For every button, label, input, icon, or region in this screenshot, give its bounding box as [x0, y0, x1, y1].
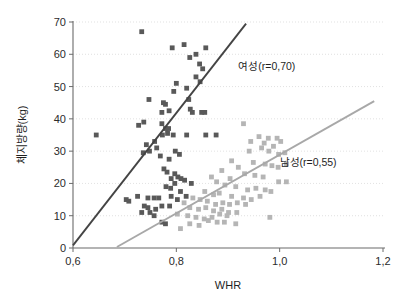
x-tick-label-0.6: 0,6 [65, 255, 80, 267]
data-point [222, 220, 227, 225]
data-point [159, 110, 164, 115]
data-point [203, 205, 208, 210]
data-point [185, 213, 190, 218]
x-tick-label-0.8: 0,8 [169, 255, 184, 267]
data-point [139, 210, 144, 215]
data-point [227, 202, 232, 207]
data-point [187, 221, 192, 226]
data-point [254, 186, 259, 191]
data-point [146, 205, 151, 210]
data-point [126, 199, 131, 204]
y-tick-labels-group: 010203040506070 [54, 16, 66, 254]
data-point [276, 179, 281, 184]
data-point [243, 202, 248, 207]
data-point [217, 212, 222, 217]
data-point [194, 52, 199, 57]
data-point [270, 163, 275, 168]
data-point [136, 123, 141, 128]
data-point [190, 196, 195, 201]
data-point [233, 221, 238, 226]
data-point [178, 189, 183, 194]
data-point [146, 196, 151, 201]
data-point [152, 196, 157, 201]
y-tick-label-70: 70 [54, 16, 66, 28]
trendlines-group [73, 24, 374, 247]
data-point [241, 121, 246, 126]
data-point [94, 133, 99, 138]
data-point [263, 187, 268, 192]
data-point [262, 141, 267, 146]
data-point [249, 197, 254, 202]
data-point [228, 176, 233, 181]
data-point [159, 204, 164, 209]
x-tick-marks-group [73, 248, 383, 252]
data-point [209, 175, 214, 180]
data-point [161, 100, 166, 105]
data-point [166, 126, 171, 131]
data-point [197, 62, 202, 67]
data-point [211, 208, 216, 213]
data-point [184, 194, 189, 199]
data-point [184, 133, 189, 138]
data-point [173, 149, 178, 154]
data-point [187, 55, 192, 60]
x-tick-label-1: 1,0 [272, 255, 287, 267]
data-point [148, 210, 153, 215]
data-point [203, 45, 208, 50]
y-tick-label-20: 20 [54, 177, 66, 189]
data-point [259, 146, 264, 151]
data-point [252, 173, 257, 178]
y-tick-label-30: 30 [54, 145, 66, 157]
data-point [165, 170, 170, 175]
data-point [167, 204, 172, 209]
data-point [147, 97, 152, 102]
data-point [196, 207, 201, 212]
data-point [144, 142, 149, 147]
data-point [229, 158, 234, 163]
data-point [170, 45, 175, 50]
data-point [257, 134, 262, 139]
data-point [219, 207, 224, 212]
x-tick-labels-group: 0,60,81,01,2 [65, 255, 390, 267]
data-point [229, 194, 234, 199]
data-point [163, 221, 168, 226]
data-point [164, 184, 169, 189]
y-tick-marks-group [69, 22, 73, 248]
series-label-male: 남성(r=0,55) [280, 156, 337, 168]
data-point [200, 66, 205, 71]
data-point [171, 133, 176, 138]
data-point [168, 186, 173, 191]
data-point [202, 189, 207, 194]
data-point [194, 74, 199, 79]
data-point [233, 184, 238, 189]
data-point [271, 144, 276, 149]
data-point [278, 139, 283, 144]
data-point [245, 187, 250, 192]
y-tick-label-40: 40 [54, 113, 66, 125]
data-point [177, 152, 182, 157]
data-point [202, 110, 207, 115]
data-point [141, 120, 146, 125]
y-tick-label-60: 60 [54, 48, 66, 60]
y-axis-title: 체지방량(kg) [16, 106, 28, 165]
data-point [169, 194, 174, 199]
data-point [217, 191, 222, 196]
data-point [171, 89, 176, 94]
data-point [194, 215, 199, 220]
data-point [214, 133, 219, 138]
data-point [258, 194, 263, 199]
data-point [167, 108, 172, 113]
x-tick-label-1.2: 1,2 [375, 255, 390, 267]
data-point [215, 220, 220, 225]
data-point [236, 165, 241, 170]
data-point [139, 29, 144, 34]
data-point [158, 154, 163, 159]
data-point [182, 42, 187, 47]
data-point [268, 189, 273, 194]
data-point [182, 200, 187, 205]
y-tick-label-10: 10 [54, 210, 66, 222]
data-point [156, 196, 161, 201]
y-tick-label-50: 50 [54, 81, 66, 93]
data-point [197, 223, 202, 228]
chart-container: 010203040506070 0,60,81,01,2 여성(r=0,70)남… [0, 0, 405, 301]
